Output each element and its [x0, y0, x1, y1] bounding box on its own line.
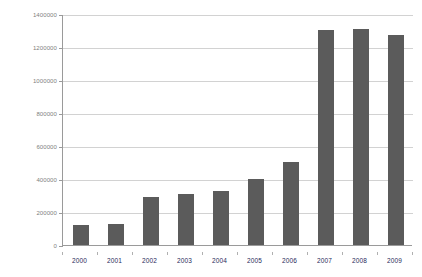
- x-axis-tick-mark: [412, 252, 413, 255]
- bar-slot: [168, 14, 203, 245]
- x-axis-tick-mark: [97, 252, 98, 255]
- x-axis-tick-label: 2002: [132, 257, 167, 265]
- y-axis-tick-label: 600000: [36, 144, 57, 150]
- x-axis-tick-mark: [307, 252, 308, 255]
- x-axis-tick-mark: [237, 252, 238, 255]
- bar-slot: [98, 14, 133, 245]
- y-axis-tick-label: 200000: [36, 210, 57, 216]
- y-axis-tick-label: 1400000: [33, 12, 57, 18]
- x-axis-tick-mark: [272, 252, 273, 255]
- y-axis-tick-label: 800000: [36, 111, 57, 117]
- x-axis-tick-label: 2004: [202, 257, 237, 265]
- x-axis-tick-label: 2006: [272, 257, 307, 265]
- bar-slot: [63, 14, 98, 245]
- y-axis-tick-label: 1000000: [33, 78, 57, 84]
- bar[interactable]: [213, 191, 229, 245]
- x-axis-tick-label: 2003: [167, 257, 202, 265]
- y-axis-tick-mark: [59, 246, 63, 247]
- x-axis-tick-mark: [202, 252, 203, 255]
- x-axis-tick-label: 2005: [237, 257, 272, 265]
- bar[interactable]: [248, 179, 264, 245]
- bar[interactable]: [143, 197, 159, 245]
- x-axis-tick-mark: [132, 252, 133, 255]
- x-axis-labels: 2000200120022003200420052006200720082009: [62, 252, 412, 266]
- bar[interactable]: [318, 30, 334, 245]
- x-axis-tick-label: 2000: [62, 257, 97, 265]
- bar[interactable]: [283, 162, 299, 245]
- bar-slot: [203, 14, 238, 245]
- bar-chart: 1400000120000010000008000006000004000002…: [0, 0, 422, 277]
- y-axis-labels: 1400000120000010000008000006000004000002…: [0, 0, 57, 277]
- x-axis-tick-mark: [167, 252, 168, 255]
- bar[interactable]: [108, 224, 124, 245]
- x-axis-tick-label: 2007: [307, 257, 342, 265]
- bar[interactable]: [353, 29, 369, 245]
- bar-slot: [133, 14, 168, 245]
- x-axis-tick-label: 2001: [97, 257, 132, 265]
- bar[interactable]: [178, 194, 194, 245]
- x-axis-tick-label: 2008: [342, 257, 377, 265]
- x-axis-tick-mark: [377, 252, 378, 255]
- bar-slot: [238, 14, 273, 245]
- x-axis-tick-mark: [62, 252, 63, 255]
- y-axis-tick-label: 1200000: [33, 45, 57, 51]
- bar-slot: [378, 14, 413, 245]
- plot-area: [62, 15, 412, 246]
- y-axis-tick-label: 0: [54, 243, 57, 249]
- bar-slot: [343, 14, 378, 245]
- bar[interactable]: [388, 35, 404, 245]
- bar[interactable]: [73, 225, 89, 245]
- y-axis-tick-label: 400000: [36, 177, 57, 183]
- bar-slot: [308, 14, 343, 245]
- x-axis-tick-label: 2009: [377, 257, 412, 265]
- bar-slot: [273, 14, 308, 245]
- x-axis-tick-mark: [342, 252, 343, 255]
